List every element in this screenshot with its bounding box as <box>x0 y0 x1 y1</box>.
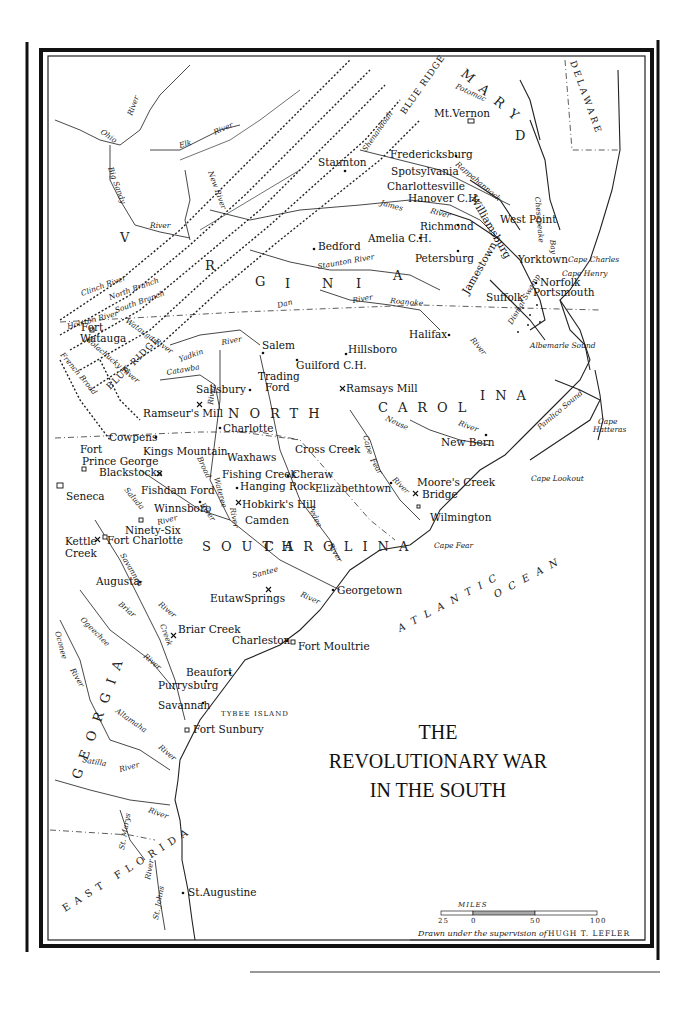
svg-text:Broad: Broad <box>195 454 213 480</box>
region-virginia-g: G <box>255 274 275 289</box>
credit-name: HUGH T. LEFLER <box>548 929 630 938</box>
place-salisbury: Salisbury <box>196 383 246 395</box>
place-cowpens: Cowpens <box>109 431 157 443</box>
svg-text:French Broad: French Broad <box>58 350 99 397</box>
cape-charles: Cape Charles <box>568 255 619 264</box>
svg-text:Cape: Cape <box>361 434 375 456</box>
place-west-point: West Point <box>500 213 557 225</box>
place-hobkirks-hill: Hobkirk's Hill <box>242 498 317 510</box>
scale-tick-50: 50 <box>530 917 541 925</box>
region-virginia-i: I <box>285 276 300 291</box>
svg-text:River: River <box>429 206 452 220</box>
place-yorktown: Yorktown <box>517 253 568 265</box>
svg-text:River: River <box>206 384 217 406</box>
region-north: NORTH <box>228 406 330 421</box>
ocean-label: ATLANTIC OCEAN <box>395 553 567 634</box>
cape-hatteras-2: Hatteras <box>592 425 627 434</box>
region-south-carolina-2: CAROLINA <box>264 539 418 554</box>
region-virginia-v: V <box>119 230 139 245</box>
place-trading-ford-2: Ford <box>265 381 290 393</box>
place-tybee-island: TYBEE ISLAND <box>221 710 289 718</box>
credit: Drawn under the supervision of HUGH T. L… <box>410 929 645 940</box>
place-charleston: Charleston <box>232 634 291 646</box>
svg-text:River: River <box>211 120 234 137</box>
svg-text:River: River <box>390 474 412 496</box>
place-richmond: Richmond <box>420 220 474 232</box>
svg-text:River: River <box>125 94 141 117</box>
svg-text:River: River <box>220 335 243 348</box>
place-elizabethtown: Elizabethtown <box>315 482 392 494</box>
place-charlotte: Charlotte <box>223 422 273 434</box>
place-bedford: Bedford <box>318 240 361 252</box>
svg-text:River: River <box>156 599 178 620</box>
scale-bar-label: MILES <box>457 901 488 909</box>
region-virginia-n: N <box>322 276 343 291</box>
svg-text:Elk: Elk <box>177 138 193 150</box>
place-petersburg: Petersburg <box>415 252 474 264</box>
place-moores-creek: Moore's Creek <box>417 476 496 488</box>
svg-text:Dan: Dan <box>275 297 293 310</box>
place-amelia-ch: Amelia C.H. <box>367 232 432 244</box>
place-eutaw-springs: EutawSprings <box>210 592 285 604</box>
svg-text:River: River <box>141 651 163 672</box>
place-wilmington: Wilmington <box>430 511 492 523</box>
place-kettle-creek: Kettle <box>65 535 97 547</box>
scale-tick-0: 0 <box>471 917 476 925</box>
svg-text:Shenandoah: Shenandoah <box>360 109 395 153</box>
place-fort-moultrie: Fort Moultrie <box>298 640 370 652</box>
svg-text:Altamaha: Altamaha <box>113 706 149 735</box>
svg-text:Neuse: Neuse <box>383 413 410 432</box>
place-jamestown: Jamestown <box>459 239 499 297</box>
region-maryland-2: D <box>515 128 535 143</box>
title-line-1: THE <box>419 721 458 743</box>
water-pamlico-sound: Pamlico Sound <box>535 388 585 432</box>
svg-text:Briar: Briar <box>116 599 138 619</box>
place-beaufort: Beaufort <box>186 666 233 678</box>
svg-text:River: River <box>117 760 140 774</box>
place-fort-sunbury: Fort Sunbury <box>193 723 264 735</box>
place-moores-creek-bridge: Bridge <box>422 488 458 500</box>
svg-text:Santee: Santee <box>251 564 279 580</box>
place-fredericksburg: Fredericksburg <box>390 148 473 160</box>
svg-text:River: River <box>68 666 87 689</box>
region-virginia-r: R <box>205 258 225 273</box>
place-savannah: Savannah <box>158 699 210 711</box>
place-staunton: Staunton <box>318 156 367 168</box>
svg-text:River: River <box>456 418 479 434</box>
svg-text:Big Sandy: Big Sandy <box>106 165 128 206</box>
place-hillsboro: Hillsboro <box>348 343 397 355</box>
svg-text:Catawba: Catawba <box>166 362 200 377</box>
svg-text:River: River <box>228 506 241 529</box>
place-camden: Camden <box>245 514 289 526</box>
place-ramsays-mill: Ramsays Mill <box>346 382 418 394</box>
place-cheraw: Cheraw <box>292 468 333 480</box>
svg-text:Creek: Creek <box>158 623 174 648</box>
scale-tick-100: 100 <box>590 917 606 925</box>
svg-text:Ogeechee: Ogeechee <box>79 615 112 648</box>
place-fort-prince-george: Fort <box>80 443 103 455</box>
region-carolina-nc-2: INA <box>480 388 536 403</box>
svg-text:Bay: Bay <box>548 238 558 255</box>
scale-tick-25: 25 <box>438 917 449 925</box>
svg-text:Pedee: Pedee <box>306 503 324 529</box>
svg-text:James: James <box>378 198 405 213</box>
region-virginia-a: A <box>392 268 412 283</box>
svg-text:Staunton River: Staunton River <box>317 252 375 271</box>
place-spotsylvania: Spotsylvania <box>391 165 459 177</box>
map-title: THE REVOLUTIONARY WAR IN THE SOUTH <box>329 721 548 801</box>
place-fishdam-ford: Fishdam Ford <box>141 484 215 496</box>
place-purrysburg: Purrysburg <box>158 679 219 691</box>
place-blackstocks: Blackstocks <box>99 466 162 478</box>
water-albemarle-sound: Albemarle Sound <box>529 341 596 350</box>
credit-prefix: Drawn under the supervision of <box>417 929 549 938</box>
place-kettle-creek-2: Creek <box>65 547 97 559</box>
place-seneca: Seneca <box>66 490 105 502</box>
ocean-atlantic: ATLANTIC <box>395 569 505 635</box>
svg-text:St. Johns: St. Johns <box>151 885 166 920</box>
region-carolina-nc: CAROL <box>378 400 476 415</box>
region-virginia-i2: I <box>356 276 371 291</box>
place-charlottesville: Charlottesville <box>387 180 465 192</box>
place-st-augustine: St.Augustine <box>188 886 257 898</box>
place-waxhaws: Waxhaws <box>227 451 276 463</box>
svg-text:River: River <box>156 742 178 763</box>
